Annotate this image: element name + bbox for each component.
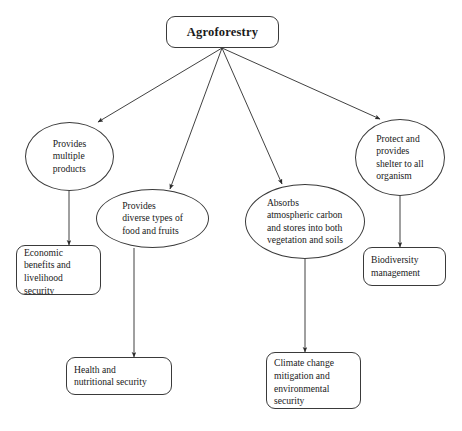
node-label: Protect and provides shelter to all orga… — [376, 133, 423, 183]
node-health-nutritional-security[interactable]: Health and nutritional security — [66, 357, 172, 395]
node-label: Provides diverse types of food and fruit… — [122, 200, 183, 237]
node-protect-provides-shelter[interactable]: Protect and provides shelter to all orga… — [355, 119, 445, 196]
edge-root-to-food — [170, 48, 222, 189]
node-agroforestry-root[interactable]: Agroforestry — [166, 16, 279, 48]
node-biodiversity-management[interactable]: Biodiversity management — [363, 247, 446, 286]
node-provides-multiple-products[interactable]: Provides multiple products — [25, 122, 114, 191]
node-climate-change-mitigation[interactable]: Climate change mitigation and environmen… — [266, 352, 361, 409]
node-label: Health and nutritional security — [74, 364, 147, 389]
diagram-canvas: Agroforestry Provides multiple products … — [0, 0, 462, 431]
edge-root-to-carbon — [222, 48, 282, 184]
node-label: Provides multiple products — [53, 138, 87, 175]
node-absorbs-atmospheric-carbon[interactable]: Absorbs atmospheric carbon and stores in… — [245, 184, 365, 259]
edge-root-to-shelter — [222, 48, 380, 119]
node-label: Economic benefits and livelihood securit… — [24, 247, 71, 295]
node-economic-benefits-livelihood-security[interactable]: Economic benefits and livelihood securit… — [16, 245, 101, 295]
node-label: Biodiversity management — [371, 254, 420, 279]
node-label: Absorbs atmospheric carbon and stores in… — [267, 197, 343, 247]
node-label: Agroforestry — [187, 24, 258, 40]
node-provides-diverse-food[interactable]: Provides diverse types of food and fruit… — [96, 189, 209, 248]
edge-root-to-products — [98, 48, 222, 122]
node-label: Climate change mitigation and environmen… — [274, 357, 334, 408]
